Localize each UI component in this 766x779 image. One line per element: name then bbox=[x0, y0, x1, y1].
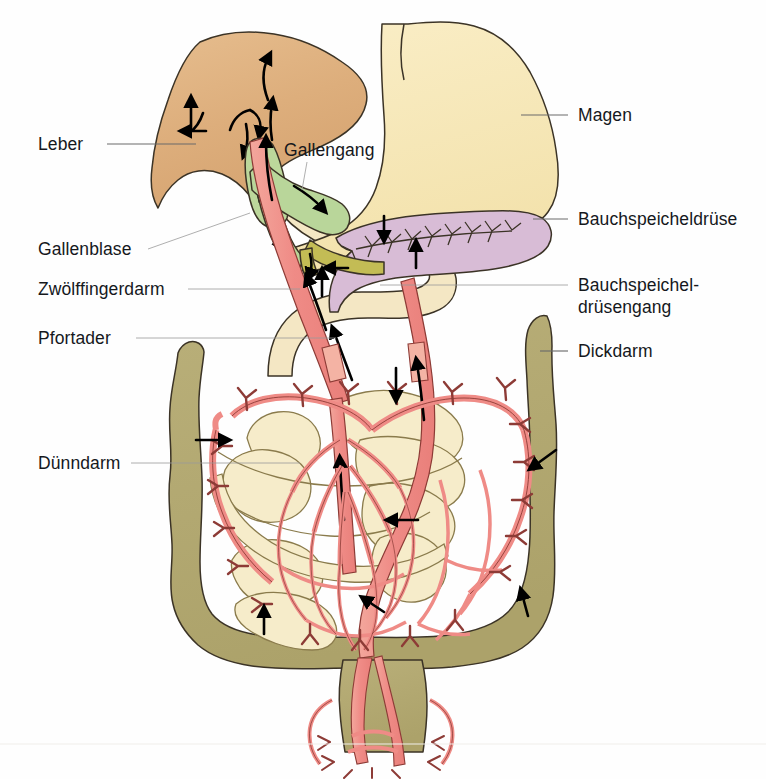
label-pfortader: Pfortader bbox=[38, 328, 111, 348]
label-magen: Magen bbox=[578, 105, 632, 125]
label-bauchspeicheldruesengang-line2: drüsengang bbox=[578, 297, 671, 317]
label-zwoelffingerdarm: Zwölffingerdarm bbox=[38, 279, 165, 299]
anatomy-diagram: Leber Gallenblase Zwölffingerdarm Pforta… bbox=[0, 0, 766, 779]
label-dickdarm: Dickdarm bbox=[578, 341, 653, 361]
label-bauchspeicheldruesengang-line1: Bauchspeichel- bbox=[578, 275, 699, 295]
figure-canvas: Leber Gallenblase Zwölffingerdarm Pforta… bbox=[0, 0, 766, 779]
label-duenndarm: Dünndarm bbox=[38, 453, 121, 473]
label-leber: Leber bbox=[38, 134, 83, 154]
label-gallengang: Gallengang bbox=[284, 140, 375, 160]
label-gallenblase: Gallenblase bbox=[38, 239, 132, 259]
label-bauchspeicheldruese: Bauchspeicheldrüse bbox=[578, 209, 737, 229]
